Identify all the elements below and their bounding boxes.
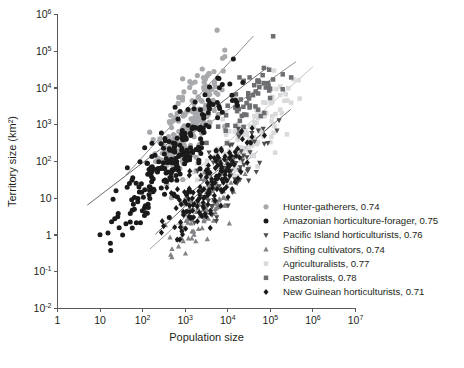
x-tick-label: 102 <box>135 314 151 326</box>
legend-marker-circle <box>263 204 268 209</box>
legend-marker-triangle-down <box>263 233 268 238</box>
x-tick-label: 1 <box>55 314 61 326</box>
legend-label[interactable]: New Guinean horticulturists, 0.71 <box>283 286 424 297</box>
legend-label[interactable]: Hunter-gatherers, 0.74 <box>283 201 380 212</box>
x-axis-title: Population size <box>169 331 244 343</box>
x-tick-label: 10 <box>94 314 106 326</box>
x-tick-label: 107 <box>348 314 364 326</box>
legend-marker-circle <box>264 219 269 224</box>
x-tick-label: 106 <box>305 314 321 326</box>
legend-group: Hunter-gatherers, 0.74Amazonian horticul… <box>263 201 438 297</box>
x-tick-label: 103 <box>177 314 193 326</box>
legend-marker-triangle-up <box>263 247 268 252</box>
legend-marker-diamond <box>263 289 268 295</box>
y-tick-label: 10-2 <box>34 302 52 314</box>
scatter-points-group <box>98 28 302 260</box>
y-tick-label: 10-1 <box>34 265 52 277</box>
legend-marker-square <box>264 261 269 266</box>
y-tick-label: 102 <box>36 155 52 167</box>
x-tick-label: 105 <box>263 314 279 326</box>
legend-label[interactable]: Agriculturalists, 0.77 <box>283 258 369 269</box>
y-tick-label: 10 <box>40 192 52 204</box>
y-tick-label: 103 <box>36 118 52 130</box>
y-tick-label: 104 <box>36 82 52 94</box>
x-tick-label: 104 <box>220 314 236 326</box>
legend-label[interactable]: Amazonian horticulture-forager, 0.75 <box>283 215 438 226</box>
scatter-plot-figure: 10610510410310210110-110-211010210310410… <box>0 0 464 368</box>
legend-label[interactable]: Pacific Island horticulturists, 0.76 <box>283 229 423 240</box>
y-tick-label: 1 <box>46 229 52 241</box>
y-tick-label: 105 <box>36 45 52 57</box>
legend-label[interactable]: Shifting cultivators, 0.74 <box>283 244 386 255</box>
plot-canvas: 10610510410310210110-110-211010210310410… <box>0 0 464 368</box>
legend-marker-square <box>264 276 269 281</box>
y-tick-label: 106 <box>36 8 52 20</box>
legend-label[interactable]: Pastoralists, 0.78 <box>283 272 357 283</box>
y-axis-title: Territory size (km²) <box>6 116 18 207</box>
